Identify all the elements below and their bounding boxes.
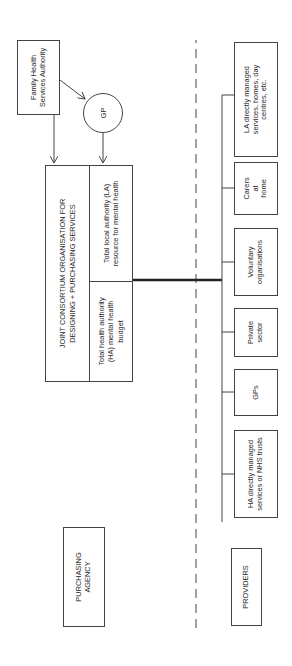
provider-ha-directly-managed: HA directly managed services or NHS trus… [234,430,278,518]
provider-gps: GPs [234,369,278,416]
provider-label: Private sector [247,317,265,348]
family-health-services-authority-box: Family Health Services Authority [17,40,60,115]
provider-label: HA directly managed services or NHS trus… [247,435,265,513]
joint-consortium-box: JOINT CONSORTIUM ORGANISATION FOR DESIGN… [45,165,133,382]
purchasing-agency-label-box: PURCHASING AGENCY [63,527,105,627]
provider-private-sector: Private sector [234,308,278,357]
provider-label: Voluntary organisations [247,229,265,295]
providers-label: PROVIDERS [242,563,251,611]
consortium-title-line1: JOINT CONSORTIUM ORGANISATION FOR [58,197,67,350]
provider-carers-at-home: Carers at home [234,162,278,215]
ha-budget-cell: Total health authority (HA) mental healt… [90,281,132,381]
la-resource-label: Total local authority (LA) resource for … [102,176,120,271]
provider-label: GPs [252,383,261,401]
la-resource-cell: Total local authority (LA) resource for … [90,166,132,281]
gp-label: GP [99,108,108,119]
fhsa-label: Family Health Services Authority [30,41,48,114]
consortium-title: JOINT CONSORTIUM ORGANISATION FOR DESIGN… [46,166,90,381]
provider-voluntary-organisations: Voluntary organisations [234,228,278,296]
provider-label: LA directly managed services, homes, day… [243,49,270,150]
purchasing-agency-label: PURCHASING AGENCY [75,546,93,608]
providers-label-box: PROVIDERS [231,548,262,626]
purchasing-provider-diagram: Family Health Services Authority GP JOIN… [0,0,292,666]
gp-node: GP [83,93,123,133]
consortium-title-line2: DESIGNING + PURCHASING SERVICES [68,202,77,344]
ha-budget-label: Total health authority (HA) mental healt… [97,288,124,375]
provider-la-directly-managed: LA directly managed services, homes, day… [234,42,278,157]
provider-label: Carers at home [243,175,270,202]
